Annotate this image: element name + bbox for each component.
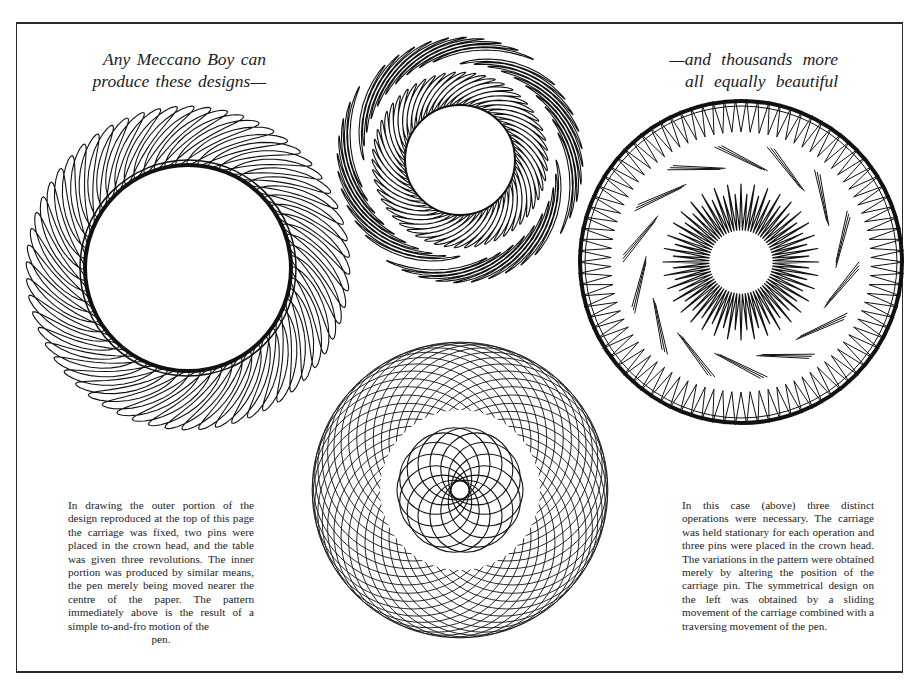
caption-right-body: In this case (above) three distinct oper…	[682, 499, 874, 633]
caption-left-body: In drawing the outer portion of the desi…	[68, 499, 254, 633]
caption-right: In this case (above) three distinct oper…	[682, 499, 874, 633]
caption-left: In drawing the outer portion of the desi…	[68, 499, 254, 646]
caption-left-last-line: pen.	[68, 633, 254, 646]
